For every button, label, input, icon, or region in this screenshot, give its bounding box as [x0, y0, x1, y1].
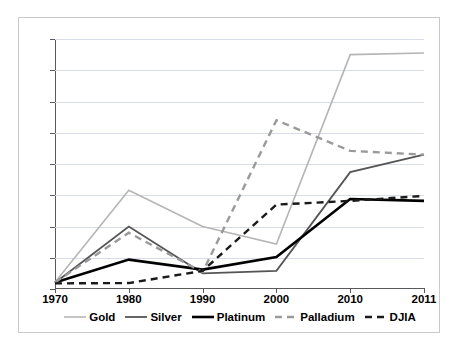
x-tick-mark — [276, 288, 277, 293]
legend-swatch-platinum-icon — [192, 312, 214, 322]
x-tick-mark — [350, 288, 351, 293]
legend-item-silver[interactable]: Silver — [125, 311, 181, 323]
legend-item-gold[interactable]: Gold — [64, 311, 115, 323]
legend-label: DJIA — [390, 311, 416, 323]
legend-swatch-silver-icon — [125, 312, 147, 322]
x-tick-mark — [55, 288, 56, 293]
x-tick-label: 2000 — [264, 293, 290, 305]
legend-label: Gold — [89, 311, 115, 323]
x-tick-mark — [129, 288, 130, 293]
x-tick-label: 2011 — [412, 293, 437, 305]
chart-figure: 05001000150020002500300035004000 1970198… — [0, 0, 458, 350]
legend-item-djia[interactable]: DJIA — [365, 311, 416, 323]
plot-area: 05001000150020002500300035004000 — [55, 39, 424, 288]
series-lines — [55, 39, 424, 289]
x-tick-mark — [203, 288, 204, 293]
x-tick-label: 1990 — [190, 293, 216, 305]
x-tick-label: 2010 — [337, 293, 363, 305]
legend-item-palladium[interactable]: Palladium — [275, 311, 354, 323]
chart-legend: GoldSilverPlatinumPalladiumDJIA — [55, 311, 425, 323]
legend-item-platinum[interactable]: Platinum — [192, 311, 266, 323]
legend-label: Silver — [150, 311, 181, 323]
legend-swatch-palladium-icon — [275, 312, 297, 322]
series-line-palladium — [55, 120, 424, 282]
legend-swatch-djia-icon — [365, 312, 387, 322]
legend-swatch-gold-icon — [64, 312, 86, 322]
legend-label: Platinum — [217, 311, 266, 323]
x-tick-mark — [424, 288, 425, 293]
x-tick-label: 1980 — [116, 293, 142, 305]
legend-label: Palladium — [300, 311, 354, 323]
x-tick-label: 1970 — [42, 293, 68, 305]
